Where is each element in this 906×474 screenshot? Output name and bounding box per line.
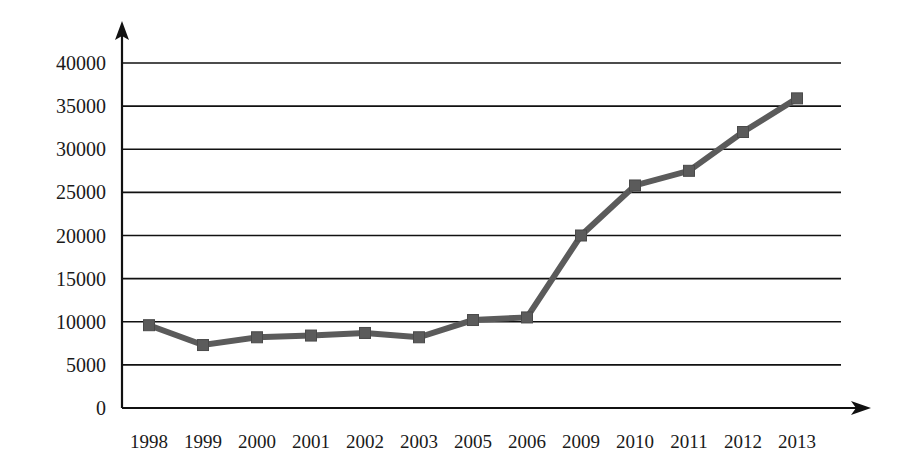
x-axis-tick-label: 2001: [292, 431, 330, 452]
data-point-marker: [306, 330, 317, 341]
data-point-marker: [630, 180, 641, 191]
x-axis-tick-label: 2006: [508, 431, 546, 452]
x-axis-tick-labels: 1998199920002001200220032005200620092010…: [130, 431, 816, 452]
y-axis-tick-labels: 0500010000150002000025000300003500040000: [56, 52, 106, 419]
x-axis-tick-label: 2011: [670, 431, 707, 452]
series-markers: [144, 93, 803, 351]
data-point-marker: [468, 315, 479, 326]
data-point-marker: [522, 312, 533, 323]
y-axis-tick-label: 25000: [56, 181, 106, 203]
y-axis-tick-label: 30000: [56, 138, 106, 160]
data-point-marker: [738, 127, 749, 138]
series-line-path: [149, 98, 797, 345]
data-point-marker: [414, 332, 425, 343]
x-axis-tick-label: 2003: [400, 431, 438, 452]
x-axis-tick-label: 1999: [184, 431, 222, 452]
axes: [115, 21, 871, 415]
x-axis-tick-label: 2009: [562, 431, 600, 452]
data-point-marker: [360, 327, 371, 338]
y-axis-tick-label: 10000: [56, 311, 106, 333]
chart-canvas: 0500010000150002000025000300003500040000…: [0, 0, 906, 474]
data-point-marker: [576, 230, 587, 241]
y-axis-tick-label: 40000: [56, 52, 106, 74]
x-axis-tick-label: 2010: [616, 431, 654, 452]
x-axis-tick-label: 2000: [238, 431, 276, 452]
x-axis-tick-label: 1998: [130, 431, 168, 452]
x-axis-tick-label: 2005: [454, 431, 492, 452]
y-axis-tick-label: 15000: [56, 268, 106, 290]
data-point-marker: [198, 340, 209, 351]
x-axis-tick-label: 2012: [724, 431, 762, 452]
x-axis-tick-label: 2013: [778, 431, 816, 452]
y-axis-tick-label: 5000: [66, 354, 106, 376]
data-point-marker: [684, 165, 695, 176]
x-axis-tick-label: 2002: [346, 431, 384, 452]
data-point-marker: [144, 320, 155, 331]
data-point-marker: [252, 332, 263, 343]
y-axis-tick-label: 35000: [56, 95, 106, 117]
y-axis-tick-label: 20000: [56, 225, 106, 247]
line-chart: 0500010000150002000025000300003500040000…: [0, 0, 906, 474]
data-series: [144, 93, 803, 351]
y-axis-tick-label: 0: [96, 397, 106, 419]
data-point-marker: [792, 93, 803, 104]
